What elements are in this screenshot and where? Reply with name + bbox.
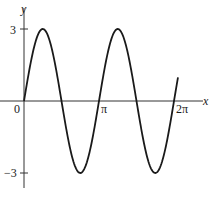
y-tick-label-3: 3 bbox=[10, 23, 16, 37]
x-axis-label: x bbox=[202, 94, 209, 108]
y-axis-label: y bbox=[20, 2, 27, 16]
x-tick-label-2pi: 2π bbox=[176, 102, 188, 116]
sine-graph: y x 3 −3 0 π 2π bbox=[0, 0, 211, 206]
y-tick-label-neg3: −3 bbox=[4, 166, 17, 180]
origin-label: 0 bbox=[14, 102, 20, 116]
x-tick-label-pi: π bbox=[101, 102, 107, 116]
